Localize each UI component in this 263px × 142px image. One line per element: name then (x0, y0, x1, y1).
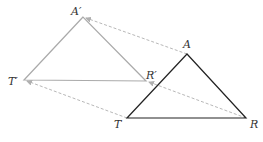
label-T-prime: T′ (8, 75, 18, 88)
label-A-prime: A′ (70, 5, 82, 18)
original-triangle (127, 54, 246, 118)
translation-diagram: A′ T′ R′ A T R (0, 0, 263, 142)
translation-vector-T (27, 81, 127, 118)
translation-vector-R (149, 82, 246, 118)
label-R-prime: R′ (145, 69, 157, 82)
label-R: R (249, 118, 258, 131)
label-T: T (114, 118, 123, 131)
diagram-canvas: A′ T′ R′ A T R (0, 0, 263, 142)
label-A: A (182, 38, 191, 51)
image-triangle (24, 17, 146, 81)
